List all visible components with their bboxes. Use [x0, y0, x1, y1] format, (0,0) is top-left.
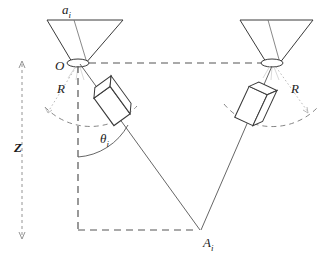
diagram-canvas: ai O R R θi Z Ai: [0, 0, 332, 263]
label-theta-sub: i: [106, 139, 109, 149]
label-depth-base: Z: [13, 140, 22, 155]
label-radius-right: R: [290, 81, 299, 96]
label-radius-right-base: R: [290, 81, 299, 96]
left-cone-left-edge: [47, 20, 72, 62]
right-aperture-ellipse: [261, 59, 283, 67]
geometry-diagram: ai O R R θi Z Ai: [0, 0, 332, 263]
label-target-point-base: A: [202, 235, 211, 250]
label-theta: θi: [100, 131, 109, 149]
left-cone-right-edge: [85, 20, 123, 64]
label-target-point: Ai: [202, 235, 214, 253]
label-radius-left-base: R: [56, 81, 65, 96]
left-cone-inner-edge: [74, 20, 87, 63]
left-aperture-ellipse: [67, 59, 89, 67]
label-origin: O: [55, 58, 65, 73]
label-depth: Z: [13, 140, 22, 155]
left-flare-ray-1: [68, 66, 76, 78]
right-cone-right-edge: [279, 20, 313, 64]
label-radius-left: R: [56, 81, 65, 96]
label-origin-base: O: [55, 58, 65, 73]
right-sensor-box: [235, 79, 277, 128]
right-radius-arrowhead: [303, 107, 308, 113]
right-cone-inner-edge: [268, 20, 280, 63]
right-flare-ray-3: [274, 67, 279, 80]
label-aperture-size-sub: i: [69, 10, 72, 20]
right-camera-cone: [240, 20, 313, 80]
right-cone-left-edge: [240, 20, 266, 62]
left-sensor-box: [89, 76, 136, 126]
label-aperture-size: ai: [62, 2, 72, 20]
label-target-point-sub: i: [211, 243, 214, 253]
